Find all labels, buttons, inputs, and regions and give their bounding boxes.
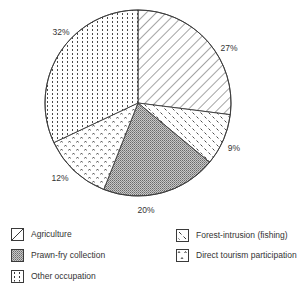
pie-label-other: 32% (52, 27, 69, 37)
legend-item-forest-intrusion: Forest-intrusion (fishing) (176, 228, 288, 242)
legend-item-other-occupation: Other occupation (11, 269, 96, 283)
vertical-dots-swatch-icon (11, 270, 24, 283)
dense-stipple-swatch-icon (11, 249, 24, 262)
pie-label-prawn: 20% (137, 205, 154, 215)
pie-slices (45, 10, 231, 196)
legend-label: Prawn-fry collection (31, 250, 105, 260)
pie-label-tourism: 12% (51, 173, 68, 183)
diagonal-dashes-swatch-icon (176, 229, 189, 242)
pie-slice-agriculture (138, 10, 231, 115)
carets-swatch-icon (176, 249, 189, 262)
legend-label: Direct tourism participation (196, 250, 297, 260)
pie-label-forest: 9% (228, 143, 241, 153)
legend-label: Forest-intrusion (fishing) (196, 230, 288, 240)
legend-item-direct-tourism: Direct tourism participation (176, 248, 297, 262)
pie-label-agriculture: 27% (220, 43, 237, 53)
legend-item-agriculture: Agriculture (11, 227, 72, 241)
legend-label: Agriculture (31, 229, 72, 239)
legend-label: Other occupation (31, 271, 96, 281)
legend-item-prawn-fry: Prawn-fry collection (11, 248, 105, 262)
diagonal-lines-swatch-icon (11, 228, 24, 241)
